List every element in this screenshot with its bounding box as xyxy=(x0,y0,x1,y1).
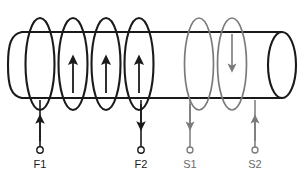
core-left-end-arc xyxy=(8,32,22,98)
terminal-label-F2: F2 xyxy=(135,158,148,170)
terminal-label-S1: S1 xyxy=(183,158,196,170)
terminal-S1[interactable]: S1 xyxy=(183,100,196,170)
core-right-end-ellipse xyxy=(268,32,296,98)
winding-diagram: F1 F2 S1 S2 xyxy=(0,0,304,176)
terminal-node[interactable] xyxy=(37,147,43,153)
diagram-canvas: F1 F2 S1 S2 xyxy=(0,0,304,176)
terminal-node[interactable] xyxy=(138,147,144,153)
terminal-node[interactable] xyxy=(187,147,193,153)
terminal-node[interactable] xyxy=(252,147,258,153)
terminal-label-F1: F1 xyxy=(34,158,47,170)
terminal-F1[interactable]: F1 xyxy=(34,100,47,170)
terminal-label-S2: S2 xyxy=(248,158,261,170)
terminal-S2[interactable]: S2 xyxy=(248,100,261,170)
